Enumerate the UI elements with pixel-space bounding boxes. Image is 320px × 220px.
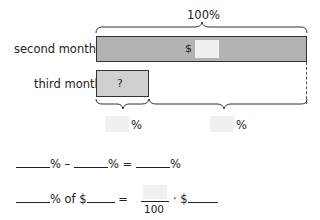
second-month-amount-input[interactable] bbox=[195, 40, 219, 58]
eq2-blank-1[interactable] bbox=[16, 202, 50, 203]
bottom-brace-icon bbox=[95, 98, 309, 110]
percent-sign-1: % bbox=[131, 118, 142, 132]
third-month-percent-input[interactable] bbox=[105, 116, 129, 132]
denominator: 100 bbox=[144, 203, 164, 215]
row-label-third-month: third month bbox=[34, 77, 102, 91]
top-brace-icon bbox=[95, 22, 309, 34]
row-label-second-month: second month bbox=[14, 42, 96, 56]
equation-2-rhs: · $ bbox=[173, 192, 218, 206]
percent-sign-2: % bbox=[236, 118, 247, 132]
eq1-blank-1[interactable] bbox=[16, 167, 50, 168]
eq2-blank-3[interactable] bbox=[188, 202, 218, 203]
top-brace-label: 100% bbox=[187, 8, 220, 22]
dollar-sign: $ bbox=[185, 42, 192, 55]
second-month-bar: $ bbox=[96, 36, 307, 62]
numerator-input[interactable] bbox=[143, 185, 167, 199]
eq1-blank-3[interactable] bbox=[136, 167, 170, 168]
third-month-bar: ? bbox=[96, 70, 149, 97]
fraction-bar bbox=[141, 201, 169, 202]
eq2-blank-2[interactable] bbox=[87, 202, 115, 203]
equation-2: % of $ = bbox=[16, 192, 128, 206]
equation-1: % – % = % bbox=[16, 157, 181, 171]
eq1-blank-2[interactable] bbox=[74, 167, 108, 168]
difference-percent-input[interactable] bbox=[210, 116, 234, 132]
unknown-mark: ? bbox=[117, 77, 123, 90]
